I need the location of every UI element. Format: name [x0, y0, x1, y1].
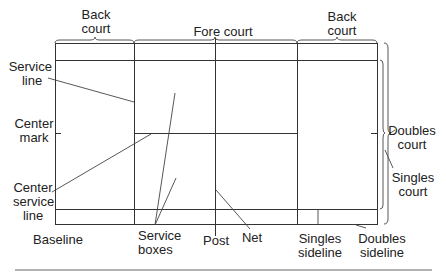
- label-center-service-line: Center service line: [13, 181, 53, 223]
- back-court-left-brace: [55, 37, 134, 43]
- label-doubles-sideline: Doubles sideline: [358, 232, 406, 260]
- court-lines: [55, 38, 378, 236]
- singles-court-leader: [385, 150, 393, 168]
- leader-lines: [48, 78, 395, 229]
- brackets: [55, 37, 391, 224]
- label-back-court-left: Back court: [79, 8, 113, 36]
- label-fore-court: Fore court: [188, 25, 258, 39]
- singles-court-brace: [380, 60, 385, 209]
- label-post: Post: [203, 234, 229, 248]
- center-service-line-leader: [52, 134, 151, 192]
- label-net: Net: [240, 231, 264, 245]
- label-service-line: Service line: [4, 60, 52, 88]
- service-line-leader: [48, 78, 134, 102]
- label-center-mark: Center mark: [14, 117, 54, 145]
- label-service-boxes: Service boxes: [138, 229, 172, 257]
- label-doubles-court: Doubles court: [388, 124, 436, 152]
- doubles-sideline-leader: [356, 225, 366, 228]
- label-singles-sideline: Singles sideline: [298, 232, 342, 260]
- service-box-leader-1: [155, 93, 175, 225]
- label-baseline: Baseline: [33, 233, 79, 247]
- label-singles-court: Singles court: [391, 171, 435, 199]
- label-back-court-right: Back court: [325, 10, 359, 38]
